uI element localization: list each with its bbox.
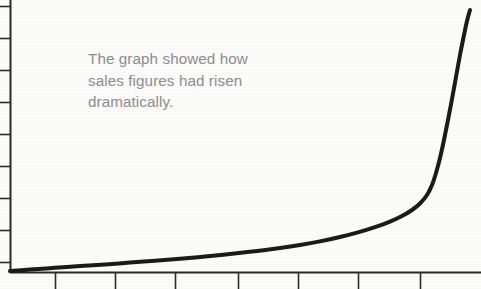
chart-caption: The graph showed how sales figures had r… xyxy=(88,48,318,113)
y-axis-ticks xyxy=(0,7,10,263)
x-axis-ticks xyxy=(56,273,421,289)
figure-canvas: The graph showed how sales figures had r… xyxy=(0,0,481,289)
exponential-growth-chart xyxy=(0,0,481,289)
